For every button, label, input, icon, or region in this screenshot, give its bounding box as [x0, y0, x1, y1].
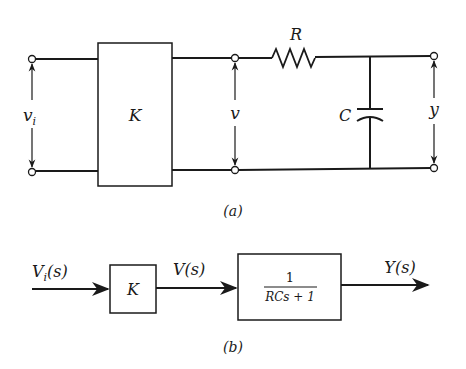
top-wire-to-output	[315, 56, 431, 57]
terminal-output-top	[431, 53, 438, 60]
label-output-voltage: y	[428, 99, 439, 119]
block-diagram-b	[32, 254, 428, 320]
circuit-figure: vi K v R C y (a) Vi(s) K V(s) 1 RCs + 1 …	[0, 0, 466, 369]
label-output-signal: Y(s)	[384, 258, 415, 277]
terminal-mid-top	[232, 55, 239, 62]
label-input-voltage: vi	[23, 105, 36, 128]
label-input-signal: Vi(s)	[32, 262, 68, 284]
label-resistor: R	[289, 25, 302, 44]
label-gain-block: K	[126, 280, 140, 299]
caption-b: (b)	[223, 339, 243, 355]
label-amplifier-gain: K	[128, 105, 143, 125]
resistor-symbol	[272, 49, 315, 67]
terminal-output-bottom	[431, 165, 438, 172]
bottom-return-wire	[238, 168, 431, 170]
label-intermediate-voltage: v	[230, 103, 240, 123]
transfer-numerator: 1	[286, 270, 294, 285]
transfer-denominator: RCs + 1	[264, 290, 315, 304]
label-intermediate-signal: V(s)	[173, 260, 205, 279]
terminal-input-bottom	[29, 169, 36, 176]
label-capacitor: C	[339, 106, 351, 125]
terminal-mid-bottom	[232, 167, 239, 174]
caption-a: (a)	[223, 203, 242, 219]
terminal-input-top	[29, 56, 36, 63]
